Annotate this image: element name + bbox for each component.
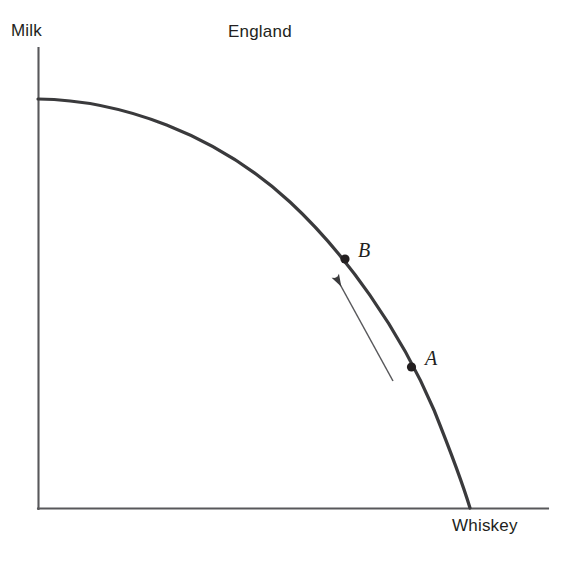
point-b-marker <box>340 254 349 263</box>
point-a-marker <box>407 362 416 371</box>
chart-title: England <box>228 22 292 42</box>
chart-background <box>0 0 567 561</box>
point-b-label: B <box>358 239 370 262</box>
point-a-label: A <box>425 347 437 370</box>
chart-figure: Milk Whiskey England B A <box>0 0 567 561</box>
y-axis-label: Milk <box>11 21 42 41</box>
ppf-chart-svg <box>0 0 567 561</box>
x-axis-label: Whiskey <box>452 516 518 536</box>
